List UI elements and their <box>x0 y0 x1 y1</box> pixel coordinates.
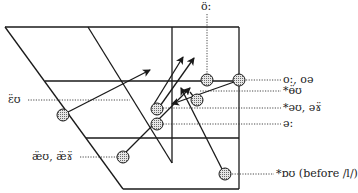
node-ae-u <box>117 151 129 163</box>
shift-arrows <box>68 57 234 169</box>
label-left-1: ɛ̈ʊ <box>8 94 21 105</box>
label-top: ö: <box>201 1 211 12</box>
node-o-before-l <box>219 168 231 180</box>
label-right-5: *ɒʊ (before /l/) <box>276 168 358 179</box>
node-oo-rounded <box>191 94 203 106</box>
label-right-4: ə: <box>283 118 293 129</box>
label-left-2: æ̈ʊ, æ̈ɤ̈ <box>32 151 73 162</box>
node-schwa-long <box>151 118 163 130</box>
node-e-u <box>57 109 69 121</box>
node-schwa-u <box>151 103 163 115</box>
label-right-2: *ɵ̈ʊ <box>283 85 302 96</box>
frame <box>5 27 239 189</box>
node-o-long <box>233 74 245 86</box>
label-right-3: *əʊ, əɤ̈ <box>283 102 322 113</box>
node-o-long-front <box>201 74 213 86</box>
